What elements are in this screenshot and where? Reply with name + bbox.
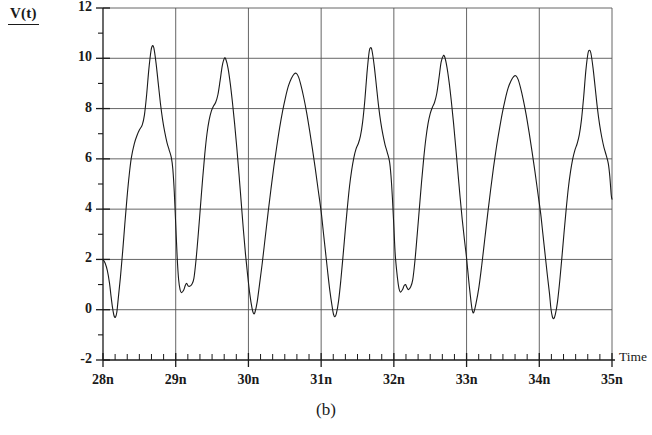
x-tick-label: 30n [225, 372, 271, 388]
x-tick-label: 33n [444, 372, 490, 388]
figure-caption-text: (b) [316, 400, 336, 420]
y-axis-label-text: V(t) [8, 5, 39, 25]
figure-caption: (b) [0, 400, 652, 420]
waveform-plot [0, 0, 652, 435]
y-tick-label: 2 [58, 250, 92, 266]
x-axis-minor-ticks [115, 354, 600, 360]
y-axis-minor-ticks [98, 33, 103, 335]
plot-background [103, 8, 612, 360]
y-tick-label: 12 [58, 0, 92, 15]
x-tick-label: 28n [80, 372, 126, 388]
figure-container: V(t) 121086420-2 28n29n30n31n32n33n34n35… [0, 0, 652, 435]
x-tick-label: 34n [516, 372, 562, 388]
x-tick-label: 31n [298, 372, 344, 388]
x-axis-label: Time [619, 349, 647, 365]
x-tick-label: 29n [153, 372, 199, 388]
x-tick-label: 35n [589, 372, 635, 388]
y-tick-label: 6 [58, 150, 92, 166]
y-tick-label: 4 [58, 200, 92, 216]
y-tick-label: -2 [58, 351, 92, 367]
y-tick-label: 10 [58, 49, 92, 65]
y-tick-label: 8 [58, 100, 92, 116]
y-tick-label: 0 [58, 301, 92, 317]
x-tick-label: 32n [371, 372, 417, 388]
